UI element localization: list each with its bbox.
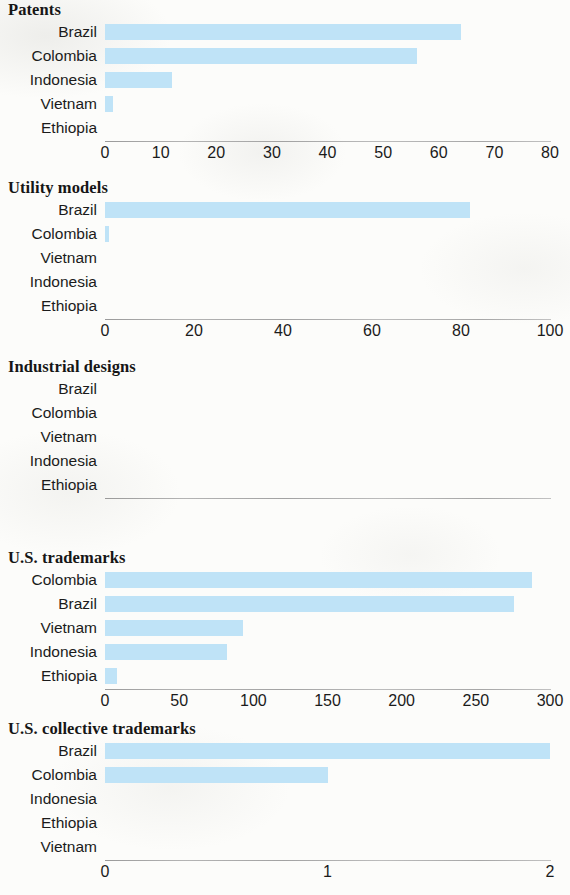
x-tick-label: 70: [485, 143, 503, 163]
x-tick-label: 0: [101, 321, 110, 341]
bar-row: Colombia: [0, 568, 570, 592]
x-tick-label: 200: [388, 691, 415, 711]
chart-title: U.S. trademarks: [8, 548, 570, 567]
chart-panel: U.S. collective trademarksBrazilColombia…: [0, 719, 570, 859]
bar-row: Colombia: [0, 222, 570, 246]
plot-area: [105, 198, 550, 222]
x-tick-label: 250: [462, 691, 489, 711]
category-label: Ethiopia: [0, 294, 97, 318]
category-label: Brazil: [0, 592, 97, 616]
category-label: Ethiopia: [0, 811, 97, 835]
x-tick-label: 80: [541, 143, 559, 163]
x-axis-line: [105, 498, 551, 499]
x-tick-label: 0: [101, 862, 110, 882]
category-label: Brazil: [0, 20, 97, 44]
bar-rows: BrazilColombiaVietnamIndonesiaEthiopia: [0, 377, 570, 497]
chart-title: Patents: [8, 0, 570, 19]
x-tick-label: 40: [319, 143, 337, 163]
plot-area: [105, 473, 550, 497]
x-axis-ticks: 050100150200250300: [0, 691, 570, 713]
plot-area: [105, 640, 550, 664]
category-label: Indonesia: [0, 270, 97, 294]
plot-area: [105, 401, 550, 425]
plot-area: [105, 44, 550, 68]
plot-area: [105, 739, 550, 763]
category-label: Colombia: [0, 222, 97, 246]
x-tick-label: 50: [374, 143, 392, 163]
bar: [105, 767, 328, 783]
bar: [105, 96, 113, 112]
category-label: Indonesia: [0, 640, 97, 664]
category-label: Colombia: [0, 401, 97, 425]
x-tick-label: 20: [207, 143, 225, 163]
plot-area: [105, 449, 550, 473]
bar: [105, 226, 109, 242]
bar: [105, 202, 470, 218]
x-axis-ticks: 012: [0, 862, 570, 884]
chart-panel: Utility modelsBrazilColombiaVietnamIndon…: [0, 178, 570, 318]
bar-row: Vietnam: [0, 246, 570, 270]
chart-panel: PatentsBrazilColombiaIndonesiaVietnamEth…: [0, 0, 570, 140]
plot-area: [105, 664, 550, 688]
bar-row: Colombia: [0, 44, 570, 68]
category-label: Indonesia: [0, 68, 97, 92]
chart-title: Industrial designs: [8, 357, 570, 376]
plot-area: [105, 568, 550, 592]
category-label: Vietnam: [0, 425, 97, 449]
bar-row: Ethiopia: [0, 811, 570, 835]
bar-row: Vietnam: [0, 425, 570, 449]
category-label: Ethiopia: [0, 473, 97, 497]
category-label: Vietnam: [0, 835, 97, 859]
bar-rows: BrazilColombiaIndonesiaEthiopiaVietnam: [0, 739, 570, 859]
plot-area: [105, 68, 550, 92]
plot-area: [105, 811, 550, 835]
category-label: Colombia: [0, 568, 97, 592]
x-axis-line: [105, 689, 551, 690]
bar-row: Ethiopia: [0, 473, 570, 497]
x-tick-label: 100: [537, 321, 564, 341]
bar: [105, 572, 532, 588]
x-tick-label: 60: [430, 143, 448, 163]
bar-rows: BrazilColombiaIndonesiaVietnamEthiopia: [0, 20, 570, 140]
bar-row: Brazil: [0, 198, 570, 222]
x-tick-label: 60: [363, 321, 381, 341]
x-tick-label: 0: [101, 691, 110, 711]
bar-row: Vietnam: [0, 92, 570, 116]
x-tick-label: 150: [314, 691, 341, 711]
bar-row: Ethiopia: [0, 116, 570, 140]
bar: [105, 743, 550, 759]
category-label: Brazil: [0, 198, 97, 222]
bar: [105, 620, 243, 636]
bar-row: Brazil: [0, 739, 570, 763]
chart-panel: Industrial designsBrazilColombiaVietnamI…: [0, 357, 570, 497]
category-label: Indonesia: [0, 787, 97, 811]
plot-area: [105, 116, 550, 140]
bar: [105, 596, 514, 612]
bar-row: Colombia: [0, 401, 570, 425]
bar-row: Indonesia: [0, 270, 570, 294]
bar-row: Brazil: [0, 20, 570, 44]
x-tick-label: 100: [240, 691, 267, 711]
category-label: Ethiopia: [0, 116, 97, 140]
plot-area: [105, 377, 550, 401]
category-label: Vietnam: [0, 616, 97, 640]
x-tick-label: 0: [101, 143, 110, 163]
plot-area: [105, 835, 550, 859]
bar: [105, 72, 172, 88]
bar-row: Vietnam: [0, 835, 570, 859]
plot-area: [105, 763, 550, 787]
bar: [105, 668, 117, 684]
x-tick-label: 10: [152, 143, 170, 163]
plot-area: [105, 246, 550, 270]
category-label: Colombia: [0, 763, 97, 787]
bar-row: Ethiopia: [0, 664, 570, 688]
x-axis-line: [105, 319, 551, 320]
plot-area: [105, 787, 550, 811]
bar-row: Vietnam: [0, 616, 570, 640]
chart-panel: U.S. trademarksColombiaBrazilVietnamIndo…: [0, 548, 570, 688]
bar-row: Indonesia: [0, 449, 570, 473]
bar-row: Colombia: [0, 763, 570, 787]
chart-title: U.S. collective trademarks: [8, 719, 570, 738]
category-label: Brazil: [0, 739, 97, 763]
x-tick-label: 80: [452, 321, 470, 341]
